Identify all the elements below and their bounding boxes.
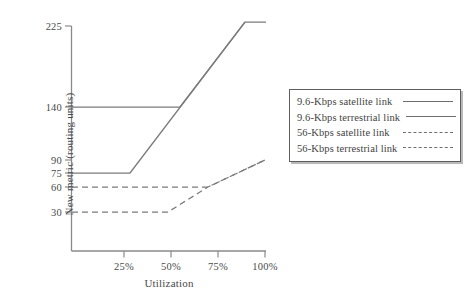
chart-legend: 9.6-Kbps satellite link 9.6-Kbps terrest… [289,89,461,162]
legend-line-sample-solid [403,101,453,103]
x-tick-label-50: 50% [161,261,181,272]
series-line-56-kbps-terrestrial [72,160,265,212]
legend-item-56-kbps-satellite: 56-Kbps satellite link [297,125,453,141]
legend-line-sample-solid [406,116,456,118]
y-tick-label-30: 30 [38,207,62,218]
x-axis-title: Utilization [144,277,193,289]
y-tick-label-140: 140 [38,102,62,113]
x-tick-label-100: 100% [252,261,277,272]
legend-label: 9.6-Kbps terrestrial link [297,112,400,123]
legend-item-56-kbps-terrestrial: 56-Kbps terrestrial link [297,141,453,157]
legend-label: 56-Kbps satellite link [297,127,390,138]
legend-item-9-6-kbps-satellite: 9.6-Kbps satellite link [297,94,453,110]
legend-label: 56-Kbps terrestrial link [297,143,397,154]
legend-label: 9.6-Kbps satellite link [297,96,392,107]
legend-line-sample-dashed [403,147,453,149]
x-tick-label-25: 25% [114,261,134,272]
y-tick-label-225: 225 [38,21,62,32]
chart-page: 225 140 90 75 60 30 25% 50% 75% 100% New… [0,0,471,308]
y-axis-title: New metric (routing units) [63,93,75,216]
legend-item-9-6-kbps-terrestrial: 9.6-Kbps terrestrial link [297,110,453,126]
y-tick-label-90: 90 [38,155,62,166]
x-tick-marks [124,251,265,258]
legend-line-sample-dashed [403,132,453,134]
series-line-9-6-kbps-terrestrial [72,22,245,173]
y-tick-label-60: 60 [38,182,62,193]
x-tick-label-75: 75% [208,261,228,272]
y-tick-label-75: 75 [38,168,62,179]
series-line-9-6-kbps-satellite [72,22,266,107]
